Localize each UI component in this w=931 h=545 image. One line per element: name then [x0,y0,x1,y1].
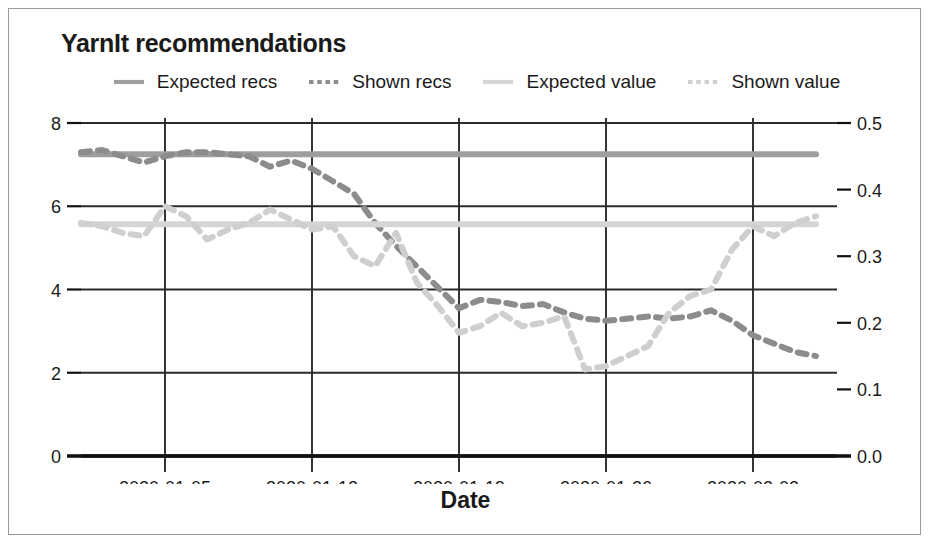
plot-svg: 024680.00.10.20.30.40.52020-01-052020-01… [9,104,922,484]
right-axis-tick-label: 0.4 [857,181,882,201]
right-axis-tick-label: 0.1 [857,380,882,400]
left-axis-tick-label: 0 [51,447,61,467]
legend-label: Expected recs [157,71,277,93]
right-axis-tick-label: 0.3 [857,247,882,267]
legend-swatch-2 [303,79,345,85]
legend-item[interactable]: Expected value [477,71,656,93]
legend-swatch-1 [108,79,150,85]
legend-label: Shown value [731,71,840,93]
left-axis-tick-label: 6 [51,197,61,217]
series-line [81,150,816,356]
series-line [81,206,816,369]
left-axis-tick-label: 8 [51,114,61,134]
x-axis-tick-label: 2020-01-19 [413,478,505,484]
left-axis-tick-label: 2 [51,364,61,384]
right-axis-tick-label: 0.0 [857,447,882,467]
x-axis-tick-label: 2020-01-05 [119,478,211,484]
x-axis-tick-label: 2020-02-02 [707,478,799,484]
legend-item[interactable]: Expected recs [108,71,277,93]
chart-legend: Expected recsShown recsExpected valueSho… [109,69,839,95]
legend-item[interactable]: Shown recs [303,71,451,93]
right-axis-tick-label: 0.5 [857,114,882,134]
legend-swatch-3 [477,79,519,85]
chart-frame: YarnIt recommendations Expected recsShow… [8,8,921,535]
chart-title: YarnIt recommendations [61,29,346,58]
right-axis-tick-label: 0.2 [857,314,882,334]
legend-swatch-4 [682,79,724,85]
x-axis-tick-label: 2020-01-26 [560,478,652,484]
x-axis-title: Date [9,487,922,514]
legend-label: Shown recs [352,71,451,93]
x-axis-tick-label: 2020-01-12 [266,478,358,484]
left-axis-tick-label: 4 [51,281,61,301]
plot-area: 024680.00.10.20.30.40.52020-01-052020-01… [9,104,922,484]
legend-label: Expected value [526,71,656,93]
legend-item[interactable]: Shown value [682,71,840,93]
